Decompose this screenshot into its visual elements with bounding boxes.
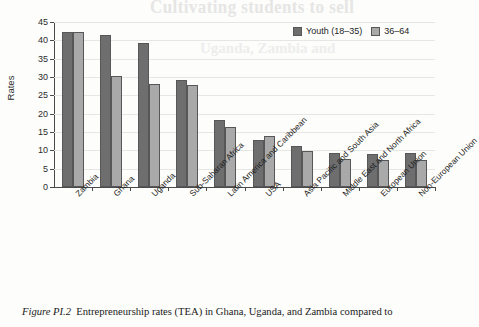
bar xyxy=(111,76,122,187)
legend-swatch-older xyxy=(371,27,380,36)
legend-label: 36–64 xyxy=(384,26,409,36)
bar xyxy=(62,32,73,187)
x-axis-tick xyxy=(168,187,169,191)
x-axis-tick xyxy=(130,187,131,191)
bar xyxy=(187,85,198,187)
bar-group xyxy=(92,22,130,187)
x-axis-tick xyxy=(435,187,436,191)
x-axis-tick xyxy=(283,187,284,191)
figure-caption-text: Entrepreneurship rates (TEA) in Ghana, U… xyxy=(76,306,392,317)
x-axis-tick xyxy=(397,187,398,191)
y-axis-tick-label: 35 xyxy=(38,54,48,63)
legend-item: 36–64 xyxy=(371,26,409,36)
y-axis-tick-label: 10 xyxy=(38,146,48,155)
x-axis-tick xyxy=(92,187,93,191)
chart-legend: Youth (18–35)36–64 xyxy=(291,25,411,37)
bar xyxy=(73,32,84,187)
y-axis-tick-label: 20 xyxy=(38,109,48,118)
bar-group xyxy=(54,22,92,187)
bar xyxy=(138,43,149,187)
bar xyxy=(149,84,160,187)
bar-group xyxy=(283,22,321,187)
bar-group xyxy=(130,22,168,187)
y-axis-tick xyxy=(50,187,54,188)
x-axis-tick xyxy=(245,187,246,191)
bar-group xyxy=(168,22,206,187)
legend-label: Youth (18–35) xyxy=(306,26,362,36)
y-axis-tick-label: 30 xyxy=(38,73,48,82)
y-axis-tick-label: 0 xyxy=(43,183,48,192)
legend-swatch-youth xyxy=(293,27,302,36)
bar xyxy=(291,146,302,187)
x-axis-tick xyxy=(206,187,207,191)
x-axis-tick xyxy=(359,187,360,191)
bar xyxy=(100,35,111,187)
figure-caption: Figure PI.2 Entrepreneurship rates (TEA)… xyxy=(22,305,434,318)
y-axis-tick-label: 40 xyxy=(38,36,48,45)
y-axis-tick-label: 15 xyxy=(38,128,48,137)
legend-item: Youth (18–35) xyxy=(293,26,362,36)
bar xyxy=(176,80,187,187)
figure-number: Figure PI.2 xyxy=(22,306,71,317)
y-axis-tick-label: 25 xyxy=(38,91,48,100)
y-axis-tick-label: 45 xyxy=(38,18,48,27)
x-axis-tick xyxy=(321,187,322,191)
y-axis-title: Rates xyxy=(5,76,16,101)
y-axis-tick-label: 5 xyxy=(43,164,48,173)
